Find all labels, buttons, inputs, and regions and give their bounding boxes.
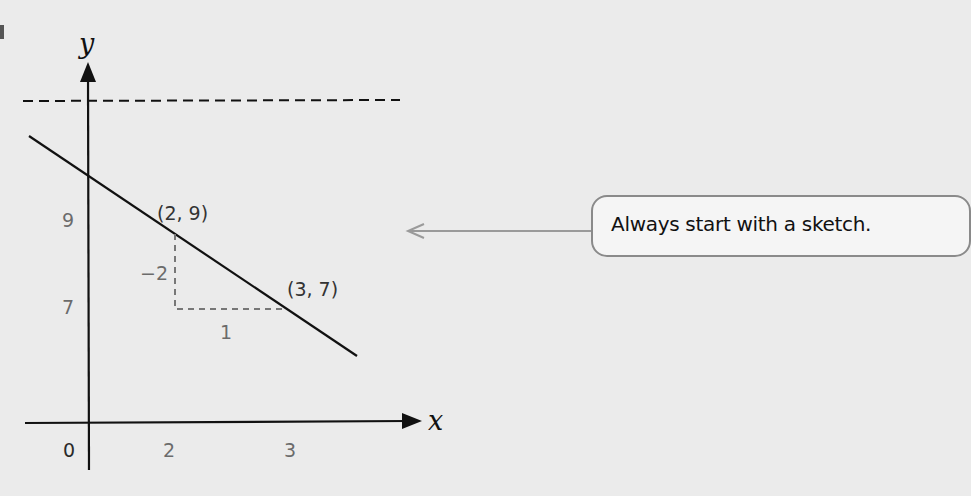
point-label-3-7: (3, 7) (287, 280, 338, 299)
x-axis (25, 421, 408, 423)
x-tick-2: 2 (163, 441, 175, 460)
y-tick-7: 7 (62, 298, 74, 317)
solid-line (29, 136, 357, 356)
run-label: 1 (220, 323, 232, 342)
point-label-2-9: (2, 9) (157, 204, 208, 223)
x-tick-3: 3 (284, 441, 296, 460)
x-axis-arrowhead-icon (402, 413, 422, 429)
dashed-asymptote (23, 100, 400, 101)
callout-text: Always start with a sketch. (611, 212, 871, 236)
y-tick-9: 9 (62, 211, 74, 230)
rise-label: −2 (140, 264, 168, 283)
y-axis-label: y (79, 30, 94, 57)
origin-label: 0 (63, 441, 75, 460)
x-axis-label: x (428, 407, 443, 434)
y-axis-arrowhead-icon (80, 62, 96, 82)
callout-box: Always start with a sketch. (591, 195, 971, 257)
y-axis (88, 78, 89, 470)
